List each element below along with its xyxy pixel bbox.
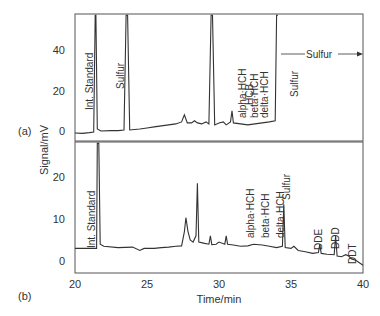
peak-label: DDD bbox=[330, 227, 341, 249]
chromatogram-chart: 0 20 40 0 10 20 20 25 30 35 40 Time/min … bbox=[0, 0, 380, 316]
x-tick-20: 20 bbox=[69, 278, 81, 290]
peak-label: DDE bbox=[313, 229, 324, 250]
y-tick-b-0: 0 bbox=[59, 255, 65, 267]
peak-label: Int. Standard bbox=[84, 53, 95, 110]
x-tick-40: 40 bbox=[357, 278, 369, 290]
peak-label: Int. Standard bbox=[86, 191, 97, 248]
peak-label: DDT bbox=[347, 243, 358, 264]
y-axis-label: Signal/mV bbox=[38, 124, 50, 175]
svg-text:Sulfur: Sulfur bbox=[306, 49, 333, 60]
peak-label: beta·HCH bbox=[260, 194, 271, 238]
y-tick-b-20: 20 bbox=[53, 171, 65, 183]
y-tick-a-40: 40 bbox=[53, 44, 65, 56]
panel-b-frame bbox=[75, 142, 363, 273]
peak-label: alpha·HCH bbox=[245, 189, 256, 238]
panel-a-label: (a) bbox=[18, 125, 31, 137]
y-tick-a-20: 20 bbox=[53, 85, 65, 97]
peak-label: Sulfur bbox=[289, 70, 300, 97]
x-axis-label: Time/min bbox=[197, 293, 242, 305]
peak-label: delta·HCH bbox=[259, 71, 270, 118]
panel-b-label: (b) bbox=[18, 290, 31, 302]
peak-label: Sulfur bbox=[281, 173, 292, 200]
x-tick-25: 25 bbox=[141, 278, 153, 290]
peak-label: Sulfur bbox=[115, 62, 126, 89]
y-tick-b-10: 10 bbox=[53, 213, 65, 225]
x-tick-30: 30 bbox=[213, 278, 225, 290]
x-tick-35: 35 bbox=[285, 278, 297, 290]
sulfur-offscale-arrow: Sulfur bbox=[281, 49, 363, 60]
peak-annotations: Int. StandardSulfuralpha·HCHHCBbeta·HCHS… bbox=[84, 49, 363, 264]
y-tick-a-0: 0 bbox=[59, 125, 65, 137]
